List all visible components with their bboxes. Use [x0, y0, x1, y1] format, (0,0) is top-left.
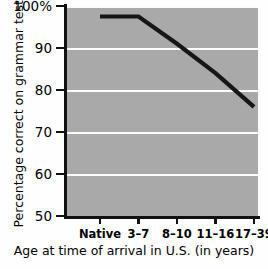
- y-tick-label-100: 100%: [13, 0, 52, 14]
- y-tick-label-60: 60: [35, 166, 52, 182]
- x-tick-label-2: 8–10: [162, 227, 192, 241]
- x-tick-4: [253, 216, 256, 224]
- y-tick-60: [56, 173, 64, 176]
- data-series-line: [66, 6, 258, 216]
- x-tick-3: [214, 216, 217, 224]
- x-axis-title: Age at time of arrival in U.S. (in years…: [0, 243, 268, 258]
- y-tick-100: [56, 5, 64, 8]
- y-tick-90: [56, 47, 64, 50]
- x-tick-label-3: 11–16: [197, 227, 235, 241]
- y-tick-70: [56, 131, 64, 134]
- x-tick-label-1: 3–7: [128, 227, 150, 241]
- y-axis-line: [64, 4, 67, 218]
- y-tick-label-80: 80: [35, 82, 52, 98]
- y-tick-80: [56, 89, 64, 92]
- x-tick-1: [137, 216, 140, 224]
- y-tick-label-70: 70: [35, 124, 52, 140]
- x-tick-2: [176, 216, 179, 224]
- x-tick-label-4: 17–39: [235, 227, 268, 241]
- x-tick-label-0: Native: [79, 227, 121, 241]
- chart-figure: Percentage correct on grammar test 50607…: [0, 0, 268, 269]
- x-tick-0: [99, 216, 102, 224]
- plot-area: [66, 6, 258, 216]
- y-tick-label-90: 90: [35, 40, 52, 56]
